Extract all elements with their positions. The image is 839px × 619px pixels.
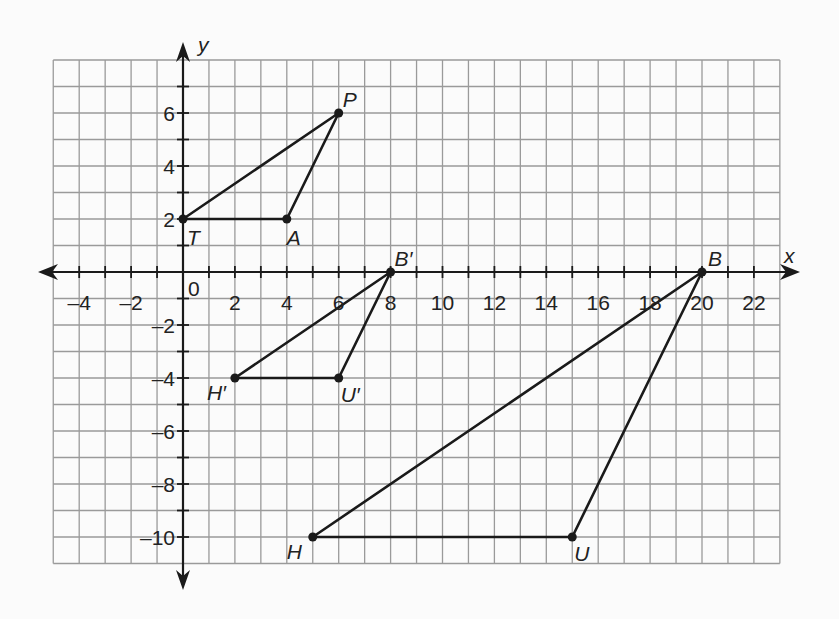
vertex-point [179,215,188,224]
x-tick-label: –4 [68,291,92,314]
x-tick-label: 22 [742,291,765,314]
y-tick-label: –4 [152,367,176,390]
x-tick-label: 2 [229,291,241,314]
x-tick-label: 8 [385,291,397,314]
x-tick-label: 20 [690,291,713,314]
x-tick-label: 10 [431,291,454,314]
x-tick-label-0: 0 [188,277,200,300]
vertex-label: H′ [207,381,227,404]
x-tick-label: –2 [119,291,142,314]
y-tick-label: –6 [152,420,175,443]
y-tick-label: 6 [163,102,175,125]
y-tick-label: –10 [140,526,175,549]
x-axis-label: x [783,244,796,267]
vertex-label: H [287,540,303,563]
coordinate-plane: –4–20246810121416182022642–2–4–6–8–10yxT… [0,0,839,619]
vertex-label: U′ [341,383,361,406]
vertex-point [282,215,291,224]
y-tick-label: –8 [152,473,175,496]
vertex-point [308,533,317,542]
x-tick-label: 4 [281,291,293,314]
vertex-point [334,374,343,383]
x-tick-label: 6 [333,291,345,314]
y-tick-label: 4 [163,155,175,178]
x-tick-label: 12 [483,291,506,314]
x-tick-label: 14 [535,291,559,314]
y-tick-label: 2 [163,208,175,231]
vertex-label: U [574,542,590,565]
vertex-point [568,533,577,542]
x-tick-label: 16 [587,291,610,314]
vertex-label: T [187,226,202,249]
vertex-label: B [708,247,722,270]
vertex-point [230,374,239,383]
y-axis-label: y [196,33,210,56]
y-tick-label: –2 [152,314,175,337]
vertex-label: A [285,226,301,249]
vertex-point [698,268,707,277]
vertex-label: B′ [395,247,414,270]
vertex-label: P [343,88,357,111]
x-tick-label: 18 [638,291,661,314]
